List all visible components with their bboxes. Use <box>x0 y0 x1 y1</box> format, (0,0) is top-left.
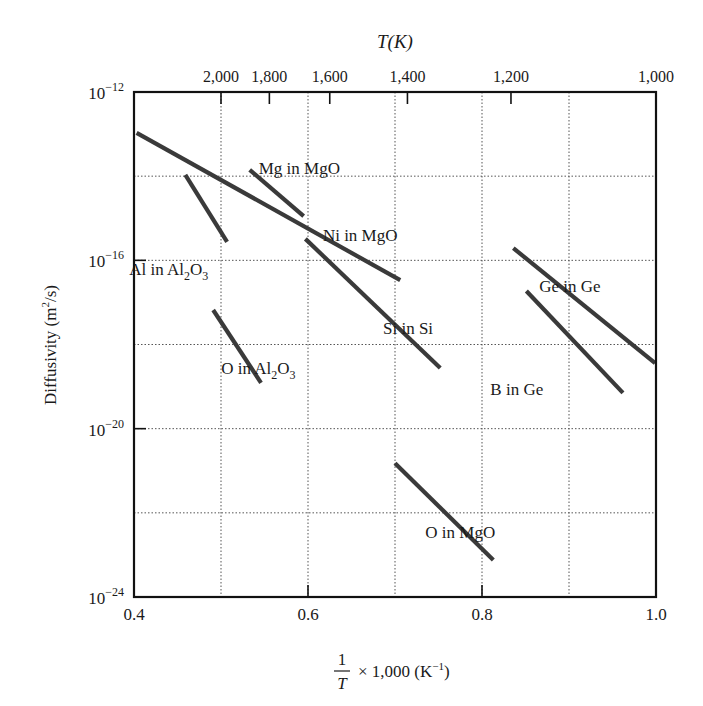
y-tick-label-base: 10 <box>88 252 105 271</box>
y-tick-label: 10−24 <box>88 585 124 608</box>
y-tick-label-exp: −16 <box>105 248 124 262</box>
diffusivity-chart: 10−1210−1610−2010−240.40.60.81.02,0001,8… <box>0 0 703 706</box>
series-line-si-in-si <box>305 239 440 368</box>
svg-text:× 1,000 (K−1): × 1,000 (K−1) <box>358 660 450 681</box>
series-labels: Ni in MgOMg in MgOAl in Al2O3Si in SiO i… <box>129 159 600 542</box>
x-axis-title-sup: −1 <box>432 660 444 672</box>
y-tick-label-base: 10 <box>88 421 105 440</box>
series-label-ni-in-mgo: Ni in MgO <box>323 226 398 245</box>
top-tick-label: 2,000 <box>203 68 239 85</box>
x-axis-title-close: ) <box>444 662 450 681</box>
y-tick-label-base: 10 <box>88 589 105 608</box>
x-axis-title-numerator: 1 <box>338 650 347 669</box>
series-line-b-in-ge <box>526 291 623 393</box>
x-axis-title-rest: × 1,000 (K <box>358 662 433 681</box>
series-line-ni-in-mgo <box>137 133 401 280</box>
top-axis-title: T(K) <box>377 31 413 53</box>
axis-ticks: 10−1210−1610−2010−240.40.60.81.02,0001,8… <box>88 68 674 624</box>
data-series <box>137 133 656 560</box>
y-tick-label-exp: −12 <box>105 80 124 94</box>
series-label-mg-in-mgo: Mg in MgO <box>259 159 340 178</box>
top-tick-label: 1,000 <box>638 68 674 85</box>
y-axis-title: Diffusivity (m2/s) <box>39 285 60 405</box>
top-tick-label: 1,200 <box>493 68 529 85</box>
y-tick-label-exp: −24 <box>105 585 124 599</box>
top-tick-label: 1,800 <box>251 68 287 85</box>
y-tick-label: 10−16 <box>88 248 124 271</box>
y-tick-label: 10−20 <box>88 417 124 440</box>
series-label-o-in-mgo: O in MgO <box>425 523 495 542</box>
x-axis-title: 1 T × 1,000 (K−1) <box>334 650 450 693</box>
series-label-si-in-si: Si in Si <box>383 319 433 338</box>
x-tick-label: 0.6 <box>297 605 318 624</box>
series-label-b-in-ge: B in Ge <box>490 380 543 399</box>
y-tick-label-base: 10 <box>88 84 105 103</box>
x-axis-title-denominator: T <box>337 674 348 693</box>
y-tick-label: 10−12 <box>88 80 124 103</box>
series-line-o-in-mgo <box>395 463 493 560</box>
y-axis-title-post: /s) <box>41 285 60 302</box>
series-label-ge-in-ge: Ge in Ge <box>539 277 600 296</box>
x-tick-label: 0.8 <box>471 605 492 624</box>
svg-text:Diffusivity (m2/s): Diffusivity (m2/s) <box>39 285 60 405</box>
x-tick-label: 1.0 <box>645 605 666 624</box>
series-label-al-in-al2o3: Al in Al2O3 <box>129 260 208 283</box>
top-tick-label: 1,400 <box>389 68 425 85</box>
y-axis-title-pre: Diffusivity (m <box>41 308 60 405</box>
top-tick-label: 1,600 <box>312 68 348 85</box>
x-tick-label: 0.4 <box>123 605 145 624</box>
y-tick-label-exp: −20 <box>105 417 124 431</box>
series-line-ge-in-ge <box>513 248 655 363</box>
